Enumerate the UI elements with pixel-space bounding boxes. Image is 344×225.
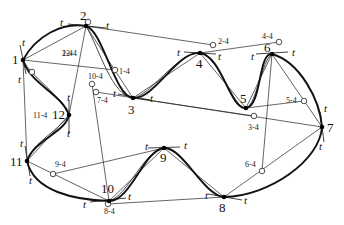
- svg-text:t: t: [244, 194, 248, 206]
- svg-text:9: 9: [160, 150, 167, 165]
- svg-text:t: t: [20, 137, 24, 149]
- svg-text:6: 6: [264, 40, 271, 55]
- svg-text:7: 7: [327, 120, 334, 135]
- svg-text:t: t: [205, 189, 209, 201]
- svg-text:9-4: 9-4: [55, 160, 66, 169]
- svg-text:t: t: [218, 50, 222, 62]
- svg-text:t: t: [60, 16, 64, 28]
- svg-text:t: t: [67, 91, 71, 103]
- svg-text:t: t: [324, 102, 328, 114]
- svg-text:t: t: [67, 127, 71, 139]
- svg-text:t: t: [29, 174, 33, 186]
- svg-text:4: 4: [196, 56, 203, 71]
- svg-text:t: t: [177, 46, 181, 58]
- aux-labels: 2-4 2-4 4-4 5-4 3-4 6-4 1-4 10-4 7-4 9-4…: [33, 32, 297, 216]
- svg-text:t: t: [113, 87, 117, 99]
- svg-text:t: t: [145, 140, 149, 152]
- svg-text:1: 1: [12, 52, 19, 67]
- svg-text:t: t: [184, 139, 188, 151]
- svg-text:t: t: [22, 36, 26, 48]
- svg-text:t: t: [251, 50, 255, 62]
- svg-text:11: 11: [10, 154, 23, 169]
- svg-text:2-4: 2-4: [218, 37, 229, 46]
- svg-text:t: t: [150, 92, 154, 104]
- svg-text:3: 3: [128, 102, 135, 117]
- svg-text:t: t: [292, 46, 296, 58]
- svg-text:t: t: [319, 140, 323, 152]
- svg-text:10-4: 10-4: [88, 72, 103, 81]
- svg-text:10: 10: [101, 181, 114, 196]
- curve-diagram: t t t t t t t t t t t t t t t t t t t t …: [0, 0, 344, 225]
- svg-text:5-4: 5-4: [286, 96, 297, 105]
- svg-text:1-4: 1-4: [119, 67, 130, 76]
- svg-text:6-4: 6-4: [245, 160, 256, 169]
- svg-text:5: 5: [240, 91, 247, 106]
- svg-text:3-4: 3-4: [248, 123, 259, 132]
- svg-text:8-4: 8-4: [104, 207, 115, 216]
- svg-text:t: t: [18, 73, 22, 85]
- svg-text:12-4: 12-4: [62, 49, 77, 58]
- svg-text:7-4: 7-4: [97, 96, 108, 105]
- svg-text:t: t: [128, 190, 132, 202]
- svg-text:2: 2: [80, 8, 87, 23]
- svg-text:11-4: 11-4: [33, 111, 47, 120]
- svg-text:8: 8: [219, 200, 226, 215]
- svg-text:12: 12: [52, 107, 65, 122]
